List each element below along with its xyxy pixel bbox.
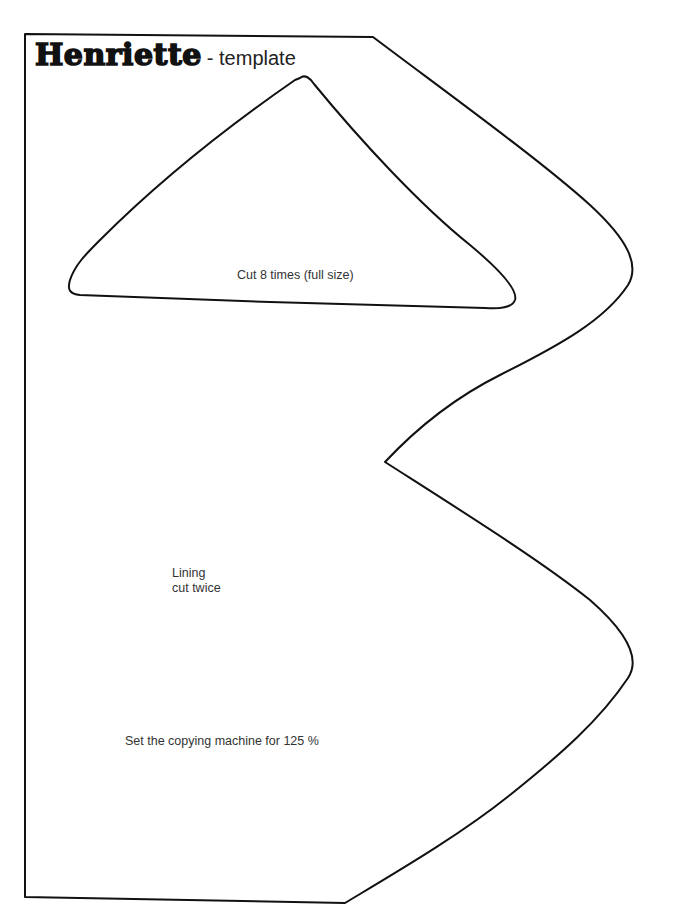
page-title: Henriette- template bbox=[35, 40, 296, 70]
pattern-title-suffix: - template bbox=[207, 47, 296, 69]
copy-scale-instruction: Set the copying machine for 125 % bbox=[125, 734, 319, 749]
lining-label-line1: Lining bbox=[172, 566, 221, 581]
lining-label-line2: cut twice bbox=[172, 581, 221, 596]
lining-piece-outline bbox=[25, 34, 633, 903]
pattern-name: Henriette bbox=[35, 37, 202, 72]
triangle-piece-label: Cut 8 times (full size) bbox=[237, 268, 354, 283]
pattern-sheet bbox=[0, 0, 673, 919]
lining-piece-label: Lining cut twice bbox=[172, 566, 221, 596]
